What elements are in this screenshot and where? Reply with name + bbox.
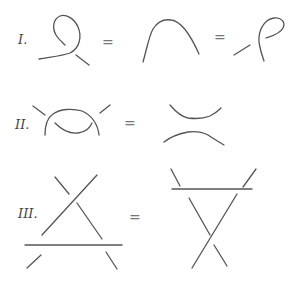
reidemeister-diagram: I. = = II. = III. <box>0 0 296 285</box>
move-2-label: II. <box>14 117 29 132</box>
move-3-label: III. <box>17 206 38 221</box>
move-3-triangle-below <box>25 175 122 269</box>
move-3: III. = <box>17 169 256 269</box>
move-1: I. = = <box>17 15 284 65</box>
equals-sign: = <box>129 209 141 225</box>
move-1-arc <box>143 20 199 62</box>
move-3-triangle-above <box>171 169 256 268</box>
move-1-label: I. <box>17 32 27 47</box>
equals-sign: = <box>102 34 114 50</box>
equals-sign: = <box>214 29 226 45</box>
move-1-twist-right <box>234 18 284 61</box>
move-2: II. = <box>14 105 224 145</box>
diagram-svg: I. = = II. = III. <box>0 0 296 285</box>
move-1-twist-left <box>39 15 89 65</box>
move-2-separated-arcs <box>164 105 224 145</box>
move-2-overlap <box>33 105 110 135</box>
equals-sign: = <box>124 115 136 131</box>
